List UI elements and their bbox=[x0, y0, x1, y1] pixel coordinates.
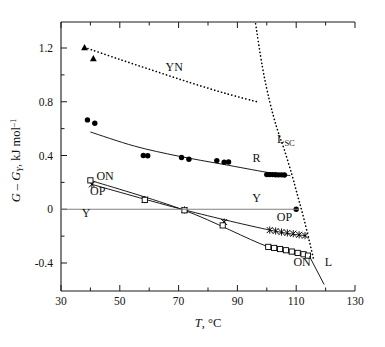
data-point-circle bbox=[92, 121, 97, 126]
scatter-plot: 30507090110130 1.20.80.40-0.4 YNLSCRONOP… bbox=[0, 0, 385, 347]
y-tick-label: 1.2 bbox=[39, 42, 54, 54]
annotation-l: L bbox=[325, 255, 332, 269]
x-tick-label: 90 bbox=[232, 295, 244, 307]
data-point-circle bbox=[214, 158, 219, 163]
x-tick-label: 30 bbox=[55, 295, 67, 307]
y-tick-label: 0 bbox=[47, 203, 53, 215]
data-point-square bbox=[283, 248, 288, 253]
data-point-square bbox=[88, 178, 93, 183]
x-tick-label: 50 bbox=[114, 295, 126, 307]
chart-figure: 30507090110130 1.20.80.40-0.4 YNLSCRONOP… bbox=[0, 0, 385, 347]
data-point-circle bbox=[145, 153, 150, 158]
annotation-op: OP bbox=[90, 184, 106, 198]
annotation-op: OP bbox=[277, 210, 293, 224]
y-tick-label: -0.4 bbox=[35, 257, 53, 269]
data-point-circle bbox=[179, 155, 184, 160]
data-point-square bbox=[277, 246, 282, 251]
y-axis-title: G – GY, kJ mol–1 bbox=[8, 119, 25, 203]
annotation-yn: YN bbox=[166, 60, 184, 74]
data-point-square bbox=[142, 197, 147, 202]
x-tick-label: 70 bbox=[173, 295, 185, 307]
data-point-circle bbox=[226, 159, 231, 164]
annotation-on: ON bbox=[293, 255, 311, 269]
data-point-circle bbox=[186, 157, 191, 162]
annotation-r: R bbox=[253, 151, 261, 165]
annotation-y: Y bbox=[82, 206, 91, 220]
data-point-circle bbox=[85, 117, 90, 122]
x-axis-title: T, °C bbox=[195, 316, 222, 330]
data-point-square bbox=[220, 223, 225, 228]
annotation-y: Y bbox=[252, 191, 261, 205]
data-point-square bbox=[266, 244, 271, 249]
y-tick-label: 0.4 bbox=[39, 150, 54, 162]
data-point-circle bbox=[282, 172, 287, 177]
x-tick-label: 130 bbox=[346, 295, 364, 307]
data-point-square bbox=[182, 208, 187, 213]
data-point-square bbox=[289, 249, 294, 254]
x-tick-label: 110 bbox=[288, 295, 305, 307]
annotation-on: ON bbox=[96, 169, 114, 183]
y-tick-label: 0.8 bbox=[39, 96, 54, 108]
data-point-square bbox=[272, 245, 277, 250]
